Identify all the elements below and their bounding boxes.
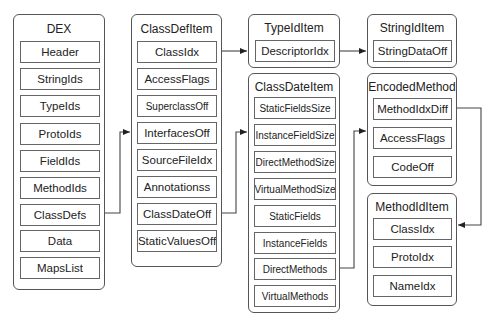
- edge-classdateoff-to-classdateitem: [222, 132, 247, 213]
- classdateitem-staticfields: StaticFields: [254, 205, 336, 227]
- classdefitem-classdateoff: ClassDateOff: [137, 203, 217, 225]
- classdateitem-virtualmethodsize: VirtualMethodSize: [254, 178, 336, 200]
- edge-directmethods-to-encodedmethod: [340, 131, 366, 268]
- methodiditem-title: MethodIdItem: [368, 200, 456, 214]
- encodedmethod-methodidxdiff: MethodIdxDiff: [373, 98, 452, 120]
- dex-item-data: Data: [20, 230, 100, 252]
- classdefitem-interfacesoff: InterfacesOff: [137, 122, 217, 144]
- encodedmethod-accessflags: AccessFlags: [373, 127, 452, 149]
- stringiditem-title: StringIdItem: [368, 21, 456, 35]
- classdateitem-directmethodsize: DirectMethodSize: [254, 151, 336, 173]
- classdefitem-staticvaluesoff: StaticValuesOff: [137, 230, 217, 252]
- encodedmethod-group: EncodedMethod MethodIdxDiff AccessFlags …: [367, 73, 457, 186]
- typeiditem-descriptoridx: DescriptorIdx: [255, 40, 335, 62]
- methodiditem-group: MethodIdItem ClassIdx ProtoIdx NameIdx: [367, 193, 457, 306]
- classdateitem-instancefields: InstanceFields: [254, 232, 336, 254]
- dex-item-header: Header: [20, 41, 100, 63]
- stringiditem-group: StringIdItem StringDataOff: [367, 14, 457, 68]
- methodiditem-protoidx: ProtoIdx: [373, 246, 452, 268]
- classdateitem-directmethods: DirectMethods: [254, 258, 336, 280]
- classdateitem-staticfieldssize: StaticFieldsSize: [254, 97, 336, 119]
- stringiditem-stringdataoff: StringDataOff: [373, 40, 452, 62]
- typeiditem-title: TypeIdItem: [249, 21, 339, 35]
- classdefitem-superclassoff: SuperclassOff: [137, 95, 217, 117]
- classdateitem-virtualmethods: VirtualMethods: [254, 285, 336, 307]
- dex-item-classdefs: ClassDefs: [20, 204, 100, 226]
- classdefitem-sourcefileidx: SourceFileIdx: [137, 149, 217, 171]
- edge-classdefs-to-classdefitem: [105, 132, 130, 213]
- dex-item-fieldids: FieldIds: [20, 150, 100, 172]
- classdefitem-accessflags: AccessFlags: [137, 68, 217, 90]
- encodedmethod-title: EncodedMethod: [368, 80, 456, 94]
- dex-item-protoids: ProtoIds: [20, 123, 100, 145]
- encodedmethod-codeoff: CodeOff: [373, 156, 452, 178]
- dex-item-mapslist: MapsList: [20, 257, 100, 279]
- classdefitem-annotationss: Annotationss: [137, 176, 217, 198]
- classdefitem-classidx: ClassIdx: [137, 41, 217, 63]
- edge-methodidxdiff-to-methodiditem: [457, 108, 481, 225]
- classdefitem-title: ClassDefItem: [132, 22, 221, 36]
- classdateitem-instancefieldsize: InstanceFieldSize: [254, 124, 336, 146]
- dex-group: DEX Header StringIds TypeIds ProtoIds Fi…: [13, 14, 105, 290]
- methodiditem-classidx: ClassIdx: [373, 218, 452, 240]
- classdefitem-group: ClassDefItem ClassIdx AccessFlags Superc…: [131, 14, 222, 267]
- dex-item-stringids: StringIds: [20, 68, 100, 90]
- dex-item-methodids: MethodIds: [20, 177, 100, 199]
- typeiditem-group: TypeIdItem DescriptorIdx: [248, 14, 340, 68]
- classdateitem-group: ClassDateItem StaticFieldsSize InstanceF…: [248, 73, 340, 313]
- dex-title: DEX: [14, 22, 104, 36]
- methodiditem-nameidx: NameIdx: [373, 275, 452, 297]
- classdateitem-title: ClassDateItem: [249, 80, 339, 94]
- dex-item-typeids: TypeIds: [20, 95, 100, 117]
